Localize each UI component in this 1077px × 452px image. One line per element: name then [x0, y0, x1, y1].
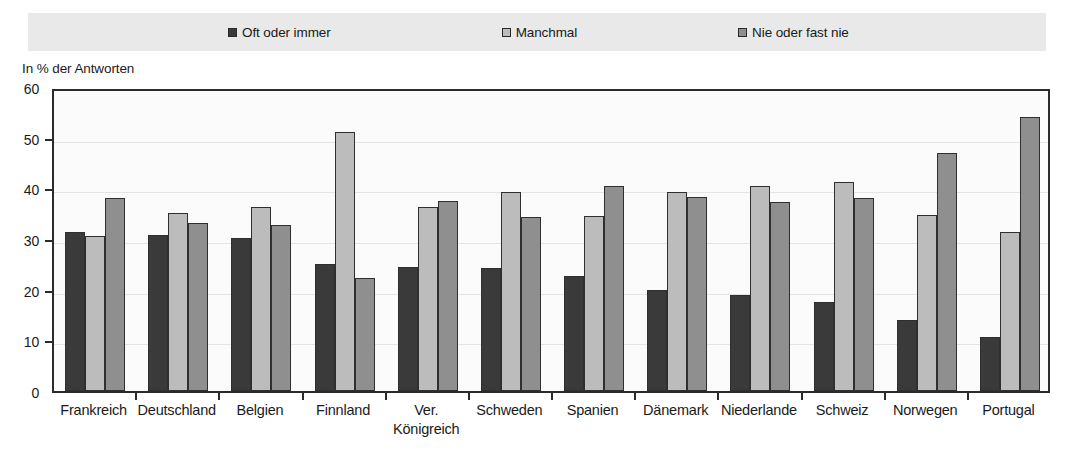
bar: [315, 264, 335, 391]
bar: [271, 225, 291, 391]
bar: [647, 290, 667, 391]
x-axis-tick: [218, 393, 220, 400]
x-axis-tick: [634, 393, 636, 400]
x-axis-tick: [884, 393, 886, 400]
bar: [667, 192, 687, 391]
x-axis-tick: [551, 393, 553, 400]
x-axis-tick: [801, 393, 803, 400]
bar: [937, 153, 957, 391]
bar: [604, 186, 624, 391]
x-axis-category-label: Schweiz: [801, 401, 884, 420]
bars-layer: [54, 91, 1048, 391]
bar: [481, 268, 501, 391]
y-axis-tick-label: 0: [31, 385, 39, 401]
bar-group: [231, 91, 291, 391]
bar: [251, 207, 271, 391]
x-axis-tick: [135, 393, 137, 400]
bar: [105, 198, 125, 391]
y-axis-tick-label: 40: [24, 182, 39, 198]
bar: [521, 217, 541, 391]
y-axis-tick-label: 50: [24, 132, 39, 148]
bar-group: [897, 91, 957, 391]
y-axis-tick: [45, 240, 52, 242]
bar: [438, 201, 458, 392]
square-swatch-icon: [738, 28, 747, 37]
bar: [398, 267, 418, 391]
bar-group: [398, 91, 458, 391]
bar: [564, 276, 584, 391]
bar: [1000, 232, 1020, 391]
bar: [584, 216, 604, 391]
bar: [897, 320, 917, 391]
x-axis-category-label: Schweden: [468, 401, 551, 420]
bar: [834, 182, 854, 391]
x-axis-tick: [468, 393, 470, 400]
x-axis-labels: FrankreichDeutschlandBelgienFinnlandVer.…: [52, 401, 1050, 451]
bar: [980, 337, 1000, 391]
y-axis-tick-label: 30: [24, 233, 39, 249]
bar-group: [564, 91, 624, 391]
bar: [335, 132, 355, 391]
y-axis-tick: [45, 341, 52, 343]
bar: [1020, 117, 1040, 391]
bar: [917, 215, 937, 391]
x-axis-ticks: [52, 393, 1050, 400]
bar: [687, 197, 707, 391]
x-axis-category-label: Deutschland: [135, 401, 218, 420]
bar-group: [315, 91, 375, 391]
x-axis-category-label: Norwegen: [884, 401, 967, 420]
y-axis-tick: [45, 139, 52, 141]
plot-area: [52, 89, 1050, 393]
legend-item-label: Oft oder immer: [242, 25, 331, 40]
bar: [148, 235, 168, 391]
x-axis-category-label: Portugal: [967, 401, 1050, 420]
x-axis-category-label: Belgien: [218, 401, 301, 420]
bar-group: [814, 91, 874, 391]
bar: [231, 238, 251, 391]
legend-item-oft-oder-immer: Oft oder immer: [228, 25, 331, 40]
y-axis: 0102030405060: [0, 89, 52, 393]
bar-group: [481, 91, 541, 391]
bar-group: [65, 91, 125, 391]
x-axis-tick: [302, 393, 304, 400]
x-axis-tick: [385, 393, 387, 400]
legend-item-label: Manchmal: [516, 25, 577, 40]
bar: [418, 207, 438, 391]
bar-group: [730, 91, 790, 391]
x-axis-category-label: Dänemark: [634, 401, 717, 420]
bar: [730, 295, 750, 391]
bar: [85, 236, 105, 391]
legend-item-manchmal: Manchmal: [502, 25, 577, 40]
y-axis-title: In % der Antworten: [22, 61, 134, 76]
x-axis-category-label: Ver. Königreich: [385, 401, 468, 439]
y-axis-tick: [45, 291, 52, 293]
x-axis-category-label: Frankreich: [52, 401, 135, 420]
x-axis-category-label: Finnland: [302, 401, 385, 420]
bar: [188, 223, 208, 391]
legend-item-nie-oder-fast-nie: Nie oder fast nie: [738, 25, 849, 40]
y-axis-tick-label: 10: [24, 334, 39, 350]
x-axis-category-label: Spanien: [551, 401, 634, 420]
bar: [65, 232, 85, 391]
x-axis-tick: [967, 393, 969, 400]
bar: [168, 213, 188, 391]
x-axis-category-label: Niederlande: [717, 401, 800, 420]
bar: [355, 278, 375, 391]
bar: [501, 192, 521, 391]
square-swatch-icon: [228, 28, 237, 37]
square-swatch-icon: [502, 28, 511, 37]
y-axis-tick: [45, 189, 52, 191]
y-axis-tick-label: 20: [24, 284, 39, 300]
bar: [770, 202, 790, 391]
bar: [814, 302, 834, 391]
x-axis-tick: [717, 393, 719, 400]
bar: [750, 186, 770, 391]
y-axis-tick-label: 60: [24, 81, 39, 97]
chart-legend: Oft oder immer Manchmal Nie oder fast ni…: [28, 13, 1046, 51]
bar-group: [148, 91, 208, 391]
legend-item-label: Nie oder fast nie: [752, 25, 849, 40]
bar: [854, 198, 874, 391]
bar-group: [980, 91, 1040, 391]
bar-group: [647, 91, 707, 391]
